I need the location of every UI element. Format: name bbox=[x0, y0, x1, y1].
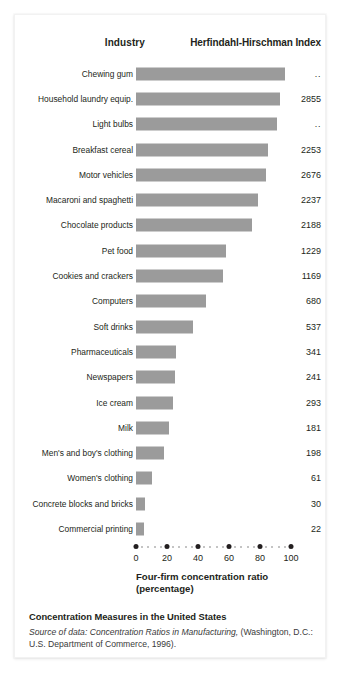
axis-major-tick bbox=[289, 544, 294, 549]
axis-minor-tick bbox=[240, 546, 242, 548]
figure-card: Industry Herfindahl-Hirschman Index Chew… bbox=[14, 14, 326, 658]
row-hhi-value: 293 bbox=[270, 398, 321, 408]
bar-track bbox=[136, 118, 291, 131]
axis-minor-tick bbox=[178, 546, 180, 548]
row-category-label: Computers bbox=[15, 296, 133, 306]
chart-row: Milk181 bbox=[15, 415, 327, 440]
row-category-label: Commercial printing bbox=[15, 524, 133, 534]
bar-track bbox=[136, 371, 291, 384]
bar bbox=[136, 320, 193, 333]
bar-track bbox=[136, 270, 291, 283]
axis-minor-tick bbox=[271, 546, 273, 548]
bar-track bbox=[136, 295, 291, 308]
bar-track bbox=[136, 345, 291, 358]
chart-row: Newspapers241 bbox=[15, 365, 327, 390]
bar bbox=[136, 219, 252, 232]
chart-row: Soft drinks537 bbox=[15, 314, 327, 339]
row-hhi-value: 2676 bbox=[270, 170, 321, 180]
axis-minor-tick bbox=[185, 546, 187, 548]
bar-chart-rows: Chewing gum..Household laundry equip.285… bbox=[15, 61, 327, 542]
bar-track bbox=[136, 168, 291, 181]
bar bbox=[136, 371, 175, 384]
caption-source-italic: Source of data: Concentration Ratios in … bbox=[29, 627, 238, 637]
bar-track bbox=[136, 320, 291, 333]
bar-track bbox=[136, 92, 291, 105]
axis-tick-label: 0 bbox=[133, 553, 138, 563]
bar bbox=[136, 447, 164, 460]
bar bbox=[136, 168, 266, 181]
axis-major-tick bbox=[196, 544, 201, 549]
bar bbox=[136, 295, 206, 308]
axis-tick-label: 60 bbox=[224, 553, 234, 563]
row-category-label: Ice cream bbox=[15, 398, 133, 408]
bar-track bbox=[136, 194, 291, 207]
row-category-label: Motor vehicles bbox=[15, 170, 133, 180]
axis-minor-tick bbox=[191, 546, 193, 548]
bar bbox=[136, 522, 144, 535]
chart-row: Household laundry equip.2855 bbox=[15, 86, 327, 111]
chart-row: Pharmaceuticals341 bbox=[15, 339, 327, 364]
x-axis: 020406080100 bbox=[136, 543, 321, 573]
industry-column-header: Industry bbox=[15, 37, 145, 48]
row-category-label: Breakfast cereal bbox=[15, 145, 133, 155]
row-category-label: Pharmaceuticals bbox=[15, 347, 133, 357]
axis-minor-tick bbox=[247, 546, 249, 548]
row-category-label: Cookies and crackers bbox=[15, 271, 133, 281]
axis-minor-tick bbox=[203, 546, 205, 548]
axis-title-line2: (percentage) bbox=[136, 583, 326, 595]
chart-row: Breakfast cereal2253 bbox=[15, 137, 327, 162]
row-hhi-value: 30 bbox=[270, 499, 321, 509]
row-category-label: Newspapers bbox=[15, 372, 133, 382]
row-hhi-value: 241 bbox=[270, 372, 321, 382]
row-category-label: Women's clothing bbox=[15, 473, 133, 483]
axis-tick-label: 20 bbox=[162, 553, 172, 563]
chart-row: Light bulbs.. bbox=[15, 112, 327, 137]
bar bbox=[136, 472, 152, 485]
axis-title-line1: Four-firm concentration ratio bbox=[136, 571, 326, 583]
bar bbox=[136, 396, 173, 409]
bar-track bbox=[136, 497, 291, 510]
bar bbox=[136, 143, 268, 156]
bar bbox=[136, 270, 223, 283]
axis-major-tick bbox=[227, 544, 232, 549]
axis-minor-tick bbox=[160, 546, 162, 548]
bar-track bbox=[136, 522, 291, 535]
axis-tick-label: 100 bbox=[283, 553, 298, 563]
axis-title: Four-firm concentration ratio (percentag… bbox=[136, 571, 326, 596]
row-hhi-value: 537 bbox=[270, 322, 321, 332]
row-category-label: Macaroni and spaghetti bbox=[15, 195, 133, 205]
axis-tick-dots bbox=[136, 543, 291, 552]
axis-minor-tick bbox=[141, 546, 143, 548]
axis-minor-tick bbox=[278, 546, 280, 548]
chart-row: Computers680 bbox=[15, 289, 327, 314]
bar bbox=[136, 67, 285, 80]
row-hhi-value: .. bbox=[270, 69, 321, 79]
hhi-column-header: Herfindahl-Hirschman Index bbox=[153, 37, 321, 48]
bar-track bbox=[136, 244, 291, 257]
row-category-label: Men's and boy's clothing bbox=[15, 448, 133, 458]
axis-minor-tick bbox=[234, 546, 236, 548]
row-category-label: Concrete blocks and bricks bbox=[15, 499, 133, 509]
row-hhi-value: 2253 bbox=[270, 145, 321, 155]
row-category-label: Chewing gum bbox=[15, 69, 133, 79]
bar-track bbox=[136, 421, 291, 434]
row-hhi-value: 181 bbox=[270, 423, 321, 433]
bar-track bbox=[136, 396, 291, 409]
bar bbox=[136, 118, 277, 131]
row-hhi-value: 61 bbox=[270, 473, 321, 483]
bar-track bbox=[136, 219, 291, 232]
axis-minor-tick bbox=[253, 546, 255, 548]
row-category-label: Chocolate products bbox=[15, 220, 133, 230]
bar-track bbox=[136, 447, 291, 460]
bar-track bbox=[136, 143, 291, 156]
chart-row: Chewing gum.. bbox=[15, 61, 327, 86]
chart-row: Commercial printing22 bbox=[15, 516, 327, 541]
chart-row: Pet food1229 bbox=[15, 238, 327, 263]
chart-row: Men's and boy's clothing198 bbox=[15, 440, 327, 465]
row-hhi-value: 2237 bbox=[270, 195, 321, 205]
axis-minor-tick bbox=[265, 546, 267, 548]
bar bbox=[136, 345, 176, 358]
axis-tick-label: 80 bbox=[255, 553, 265, 563]
column-headers: Industry Herfindahl-Hirschman Index bbox=[15, 37, 327, 53]
row-category-label: Pet food bbox=[15, 246, 133, 256]
